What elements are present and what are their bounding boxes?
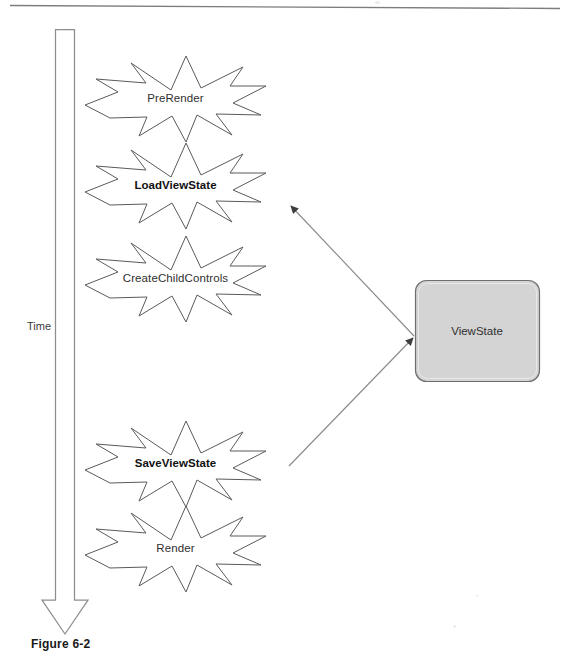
figure-caption: Figure 6-2 — [31, 637, 90, 651]
connector-saveviewstate-to-viewstate — [289, 338, 413, 466]
connector-viewstate-to-loadviewstate — [291, 206, 414, 336]
figure-page: Time PreRender LoadViewState CreateChild… — [0, 0, 566, 664]
scan-speck — [453, 625, 456, 628]
viewstate-store-label: ViewState — [415, 325, 539, 337]
lifecycle-label-saveviewstate: SaveViewState — [85, 458, 266, 470]
lifecycle-label-render: Render — [85, 543, 266, 555]
page-top-rule — [10, 6, 560, 9]
lifecycle-label-prerender: PreRender — [85, 93, 266, 105]
lifecycle-label-loadviewstate: LoadViewState — [85, 180, 266, 192]
scan-speck — [375, 1, 380, 4]
lifecycle-label-createchildcontrols: CreateChildControls — [85, 273, 266, 285]
scan-speck — [476, 594, 479, 597]
time-axis-label: Time — [27, 320, 51, 332]
